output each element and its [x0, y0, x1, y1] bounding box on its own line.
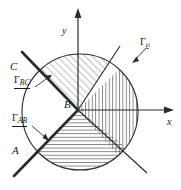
label-gamma-bc: ΓBC [14, 75, 30, 89]
label-gamma-ab: ΓAB [12, 113, 27, 127]
figure-canvas [0, 0, 181, 190]
gamma-ab-subscript: AB [18, 116, 28, 125]
y-axis-label: y [62, 26, 66, 36]
point-label-B: B [64, 99, 71, 110]
y-axis-arrowhead [75, 8, 82, 18]
point-label-C: C [10, 61, 17, 72]
x-axis-label: x [167, 117, 171, 127]
gamma-bc-subscript: BC [20, 78, 30, 87]
x-axis-arrowhead [164, 107, 174, 114]
leader-arrow-gamma-rho [132, 57, 139, 64]
point-label-A: A [12, 145, 19, 156]
leader-line-gamma-bc [35, 77, 49, 87]
gamma-rho-subscript: ϱ [146, 40, 150, 49]
label-gamma-rho: Γϱ [140, 37, 150, 49]
leader-arrow-gamma-ab [43, 134, 50, 142]
geometry-figure: y x B C A ΓBC ΓAB Γϱ [0, 0, 181, 190]
